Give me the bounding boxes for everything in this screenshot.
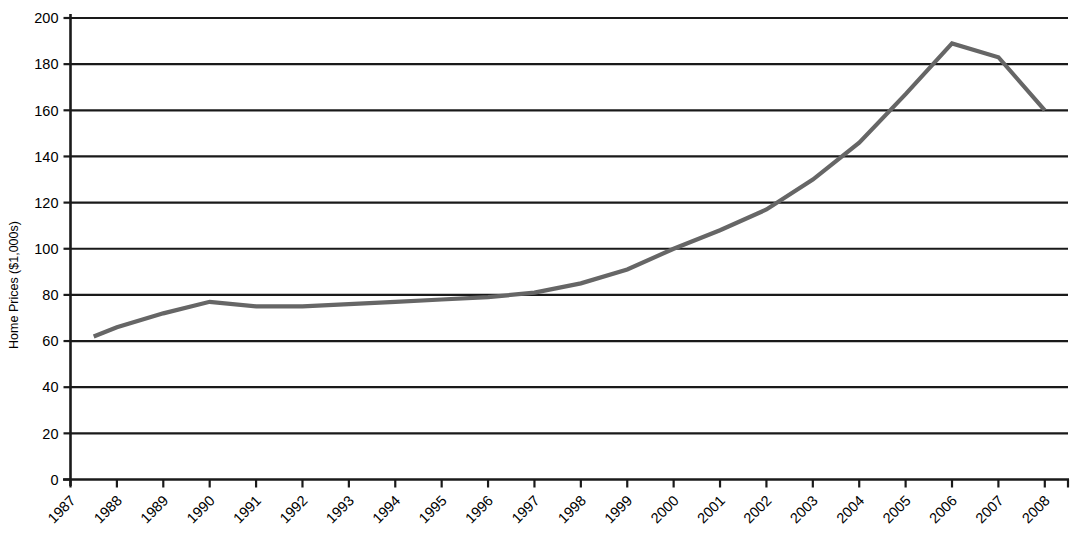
- home-prices-line-chart: Home Prices ($1,000s) 200180160140120100…: [0, 0, 1075, 535]
- x-tick-label: 2000: [648, 492, 682, 526]
- x-tick-label: 2001: [694, 492, 728, 526]
- x-tick-label: 2006: [926, 492, 960, 526]
- x-tick-label: 2002: [740, 492, 774, 526]
- y-tick-label: 0: [50, 472, 58, 488]
- series-line-home-prices: [94, 43, 1045, 336]
- x-tick-label: 1995: [416, 492, 450, 526]
- x-tick-label: 1989: [137, 492, 171, 526]
- y-tick-label: 20: [42, 426, 58, 442]
- chart-canvas: Home Prices ($1,000s) 200180160140120100…: [0, 0, 1075, 535]
- x-tick-label: 1990: [184, 492, 218, 526]
- y-tick-label: 100: [34, 241, 58, 257]
- y-tick-label: 80: [42, 287, 58, 303]
- x-tick-label: 2004: [833, 492, 867, 526]
- x-tick-label: 1994: [369, 492, 403, 526]
- y-tick-label: 140: [34, 149, 58, 165]
- x-tick-label: 1991: [230, 492, 264, 526]
- y-tick-label: 120: [34, 195, 58, 211]
- x-tick-label: 1998: [555, 492, 589, 526]
- y-axis-ticks: 200180160140120100806040200: [34, 10, 70, 488]
- x-tick-label: 2003: [787, 492, 821, 526]
- y-tick-label: 60: [42, 333, 58, 349]
- x-tick-label: 1996: [462, 492, 496, 526]
- x-axis-ticks: 1987198819891990199119921993199419951996…: [44, 480, 1068, 527]
- x-tick-label: 1987: [44, 492, 78, 526]
- x-tick-label: 2008: [1019, 492, 1053, 526]
- y-tick-label: 180: [34, 56, 58, 72]
- y-axis-title: Home Prices ($1,000s): [7, 221, 21, 349]
- x-tick-label: 2007: [972, 492, 1006, 526]
- x-tick-label: 1988: [91, 492, 125, 526]
- x-tick-label: 1993: [323, 492, 357, 526]
- y-axis-title-text: Home Prices ($1,000s): [7, 221, 21, 349]
- y-tick-label: 200: [34, 10, 58, 26]
- x-tick-label: 1992: [276, 492, 310, 526]
- y-tick-label: 40: [42, 379, 58, 395]
- x-tick-label: 1997: [508, 492, 542, 526]
- x-tick-label: 1999: [601, 492, 635, 526]
- y-tick-label: 160: [34, 103, 58, 119]
- x-tick-label: 2005: [880, 492, 914, 526]
